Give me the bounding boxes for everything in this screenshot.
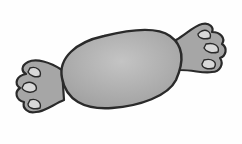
candy-illustration: wrapped candy illustration bbox=[0, 0, 242, 144]
candy-icon bbox=[0, 0, 242, 144]
right-wrapper bbox=[176, 24, 226, 73]
left-wrapper bbox=[17, 60, 64, 112]
candy-body bbox=[61, 30, 181, 108]
